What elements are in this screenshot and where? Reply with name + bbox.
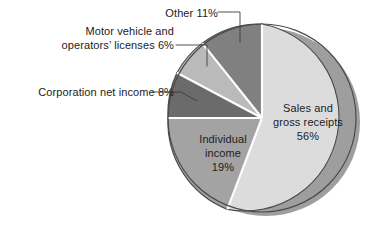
slice-label-individual-line1: Individual [184,132,262,146]
slice-label-corporation-text: Corporation net income 8% [38,86,174,98]
slice-label-other: Other 11% [148,6,218,20]
pie-chart-figure: Other 11% Motor vehicle and operators’ l… [0,0,374,231]
slice-label-individual-line2: income [184,146,262,160]
slice-label-motor-vehicle-line1: Motor vehicle and [22,24,174,38]
slice-label-sales-line3: 56% [262,129,354,143]
slice-label-other-text: Other 11% [165,7,218,19]
slice-label-sales-and-gross-receipts: Sales and gross receipts 56% [262,101,354,143]
slice-label-sales-line2: gross receipts [262,115,354,129]
slice-label-motor-vehicle-line2: operators’ licenses 6% [22,38,174,52]
slice-label-individual-line3: 19% [184,160,262,174]
slice-label-motor-vehicle: Motor vehicle and operators’ licenses 6% [22,24,174,52]
slice-label-sales-line1: Sales and [262,101,354,115]
slice-label-corporation: Corporation net income 8% [4,85,174,99]
slice-label-individual-income: Individual income 19% [184,132,262,174]
